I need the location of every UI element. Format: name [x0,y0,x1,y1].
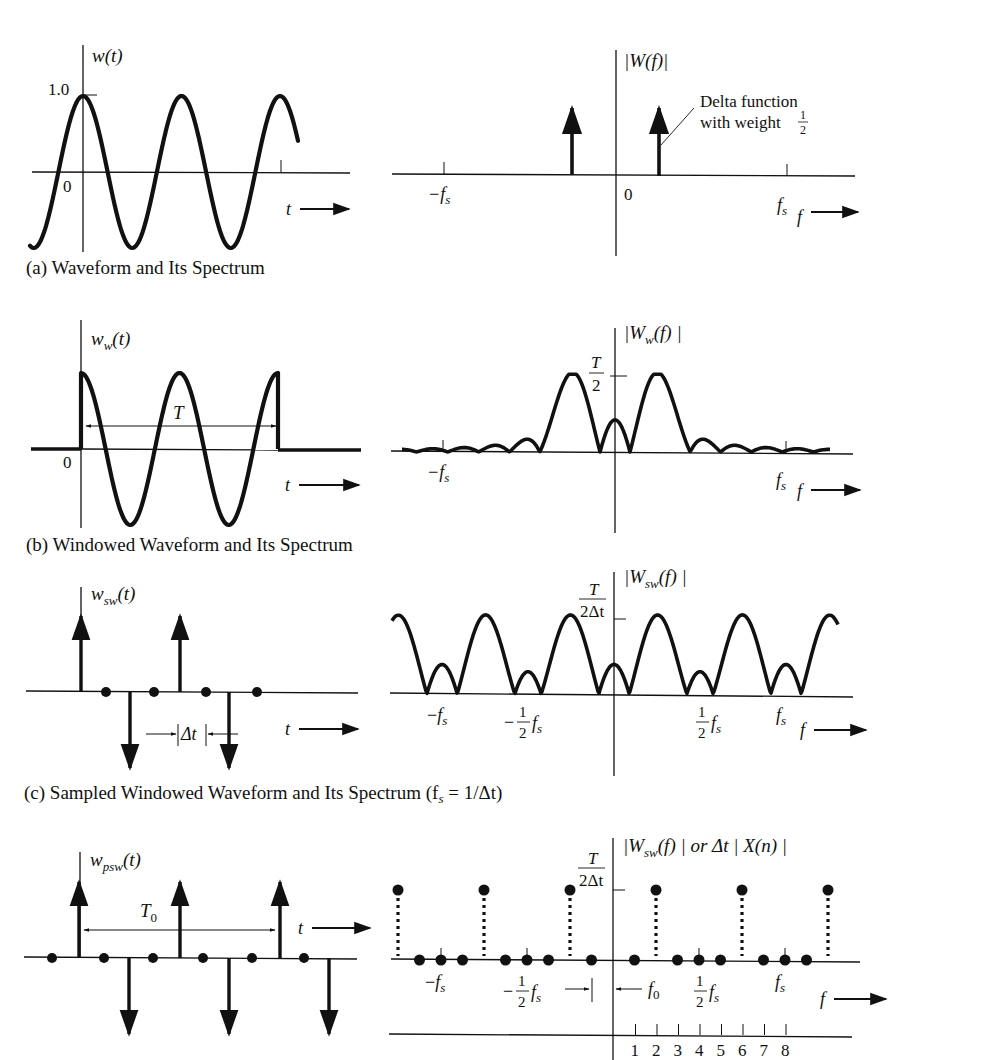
zero-sample-dot [629,955,640,966]
peak-sample-dot [651,885,662,896]
ylabel: wsw(t) [91,583,135,608]
xlabel: f [797,207,805,227]
annotation-frac-num: 1 [800,108,806,122]
tick-label-zero: 0 [624,185,633,204]
tick-label-neg-half-f: fs [531,982,541,1005]
tick-label-half-f: fs [711,713,721,736]
neg-sign: − [425,972,435,992]
index-ticks: 12345678 [631,1024,790,1060]
caption-main: (c) Sampled Windowed Waveform and Its Sp… [24,782,439,804]
peak-den: 2 [592,376,601,395]
ylabel-arg: (t) [117,583,135,605]
tick-sub: s [445,192,450,207]
annotation-line1: Delta function [700,92,798,111]
index-tick-label: 4 [695,1041,704,1060]
zero-sample-dot [101,687,111,697]
peak-sample-dot [479,885,490,896]
zero-sample-dot [801,955,812,966]
peak-sample-dot [737,885,748,896]
index-tick-label: 2 [652,1041,661,1060]
ylabel-main: |W [624,322,647,343]
panel-a: w(t) 1.0 0 t |W(f)| −fs 0 fs f Delta fun… [26,45,858,279]
xlabel: t [285,719,291,739]
tick-sub: s [444,470,449,485]
x-axis [32,172,350,173]
x-axis [392,174,855,176]
ylabel-rest: (f) | or Δt | X(n) | [658,835,787,857]
peak-sample-dot [393,885,404,896]
panel-b-time-plot: T ww(t) 0 t [31,320,361,528]
panel-d: T0 wpsw(t) t 12345678 |Wsw(f) | or Δt | … [24,835,886,1060]
tick-sub: s [714,990,719,1005]
ylabel-arg: (t) [112,328,130,350]
origin-label: 0 [63,177,72,196]
ylabel-main: w [91,328,104,349]
annotation-line2: with weight [700,113,781,132]
index-tick-label: 3 [674,1041,683,1060]
zero-sample-dot [252,687,262,697]
peak-num: T [591,353,602,372]
index-axis [389,1034,852,1037]
tick-sub: s [536,990,541,1005]
tick-label-half-num: 1 [698,704,706,720]
ylabel: |Wsw(f) | [624,566,687,591]
index-tick-label: 1 [631,1041,640,1060]
period-label: T0 [140,900,157,925]
period-sub: 0 [151,910,158,925]
caption-b: (b) Windowed Waveform and Its Spectrum [26,534,353,556]
neg-sign: − [427,705,437,725]
index-tick-label: 5 [717,1041,726,1060]
window-label: T [173,402,185,423]
ylabel-main: |W [623,835,646,856]
ylabel-sub: w [104,338,113,353]
zero-sample-dot [247,953,257,963]
ylabel-main: w [91,583,104,604]
tick-label-neg-half-f: fs [532,713,542,736]
zero-sample-dot [299,953,309,963]
zero-sample-dot [201,687,211,697]
tick-label-neg-fs: −fs [427,462,449,485]
tick-sub: s [440,980,445,995]
tick-label-neg-half-den: 2 [519,725,527,741]
zero-sample-dot [47,953,57,963]
annotation-frac-den: 2 [800,123,806,137]
index-tick-label: 7 [760,1041,769,1060]
zero-sample-dot [414,955,425,966]
ylabel-main: w [90,849,103,870]
index-tick-label: 6 [738,1041,747,1060]
panel-c-time-plot: Δt wsw(t) t [26,583,358,768]
tick-sub: s [782,203,787,218]
zero-sample-dot [149,687,159,697]
ylabel: w(t) [92,45,123,67]
tick-sub: s [442,713,447,728]
spacing-label: Δt [180,724,198,744]
xlabel: t [285,475,291,495]
panel-d-freq-plot: 12345678 |Wsw(f) | or Δt | X(n) | T 2Δt … [389,835,886,1060]
tick-label-neg-half-sign: − [503,981,513,1001]
ylabel-text: |W(f)| [624,50,668,72]
tick-sub: s [781,713,786,728]
tick-label-half-f: fs [709,982,719,1005]
index-tick-label: 8 [781,1041,790,1060]
zero-sample-dot [543,955,554,966]
tick-label-pos-fs: fs [776,705,786,728]
f0-sub: 0 [653,987,660,1002]
peak-num: T [588,849,599,868]
tick-label-neg-half-num: 1 [518,973,526,989]
tick-label-half-den: 2 [698,725,706,741]
zero-sample-dot [99,953,109,963]
xlabel: f [820,989,828,1009]
panel-d-time-plot: T0 wpsw(t) t [24,849,370,1034]
tick-label-pos-fs: fs [776,470,786,493]
annotation-leader [661,108,694,145]
zero-sample-dot [715,955,726,966]
zero-sample-dot [586,955,597,966]
tick-label-neg-fs: −fs [425,972,445,995]
ylabel: |Wsw(f) | or Δt | X(n) | [623,835,787,860]
ylabel: ww(t) [91,328,130,353]
tick-label-pos-fs: fs [775,972,785,995]
panel-b: T ww(t) 0 t |Ww(f) | T 2 −fs fs f (b) Wi… [26,320,860,556]
peak-den: 2Δt [579,871,603,890]
tick-label-neg-fs: −fs [428,184,450,207]
tick-label-neg-fs: −fs [427,705,447,728]
